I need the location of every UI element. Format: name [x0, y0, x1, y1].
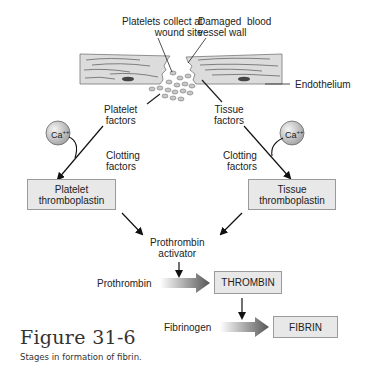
- arrow-fibrinogen-to-fibrin: [220, 317, 269, 337]
- vessel-wall-left: [80, 54, 170, 84]
- box-thrombin: THROMBIN: [214, 271, 282, 294]
- leader-platelet-factors: [147, 94, 160, 104]
- label-prothrombin: Prothrombin: [97, 278, 151, 289]
- arrow-prothrombin-to-thrombin: [160, 273, 210, 293]
- label-platelets-collect: Platelets collect at wound site: [122, 16, 203, 38]
- arrow-platelet-to-activator: [122, 213, 142, 234]
- label-calcium-left: Ca++: [51, 127, 70, 141]
- nucleus-right: [238, 77, 250, 82]
- arrow-tissue-to-activator: [221, 213, 242, 234]
- label-clotting-factors-left: Clotting factors: [106, 150, 140, 172]
- label-endothelium: Endothelium: [295, 79, 351, 90]
- box-tissue-thromboplastin: Tissue thromboplastin: [248, 179, 336, 210]
- nucleus-left: [122, 77, 134, 82]
- box-platelet-thromboplastin: Platelet thromboplastin: [27, 179, 116, 210]
- box-fibrin: FIBRIN: [273, 316, 338, 338]
- figure-title: Figure 31-6: [20, 326, 136, 348]
- vessel-wall-right: [186, 54, 282, 84]
- label-damaged-vessel: Damaged blood vessel wall: [198, 16, 271, 38]
- label-platelet-factors: Platelet factors: [104, 104, 137, 126]
- figure-caption: Stages in formation of fibrin.: [20, 352, 142, 362]
- label-prothrombin-activator: Prothrombin activator: [150, 237, 204, 259]
- label-tissue-factors: Tissue factors: [214, 104, 244, 126]
- label-fibrinogen: Fibrinogen: [164, 322, 211, 333]
- label-calcium-right: Ca++: [285, 127, 304, 141]
- label-clotting-factors-right: Clotting factors: [223, 150, 257, 172]
